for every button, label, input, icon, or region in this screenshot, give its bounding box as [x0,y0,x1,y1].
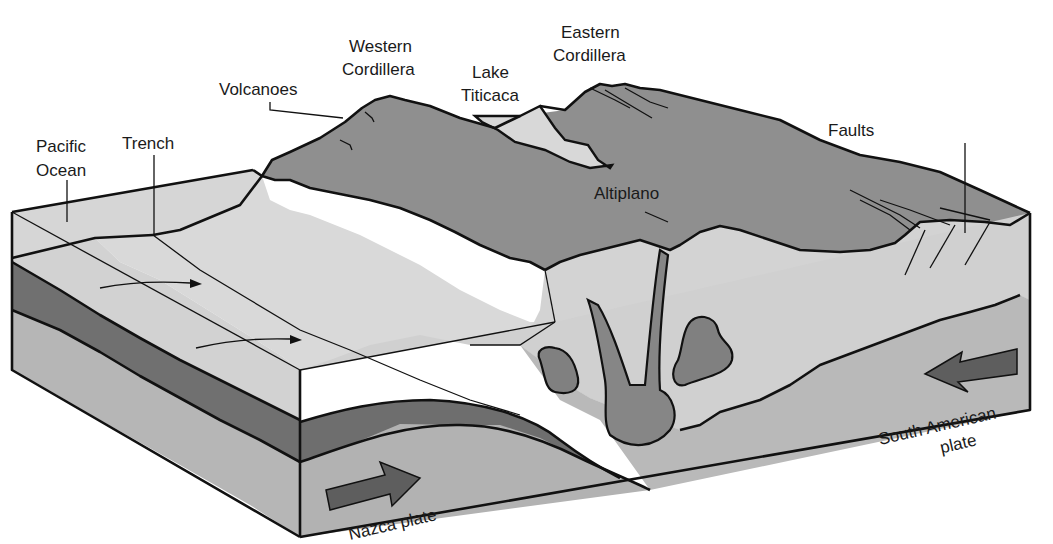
label-faults: Faults [828,121,874,140]
label-trench: Trench [122,134,174,153]
label-pacific-ocean-2: Ocean [36,161,86,180]
label-western-cordillera-1: Western [349,37,412,56]
label-pacific-ocean-1: Pacific [36,137,87,156]
label-lake-titicaca-1: Lake [472,63,509,82]
label-eastern-cordillera-1: Eastern [561,23,620,42]
label-altiplano: Altiplano [594,184,659,203]
label-south-american-plate-2: plate [938,430,978,457]
label-western-cordillera-2: Cordillera [342,60,415,79]
label-volcanoes: Volcanoes [219,80,297,99]
andes-block-diagram: Pacific Ocean Trench Volcanoes Western C… [0,0,1053,544]
label-lake-titicaca-2: Titicaca [461,86,519,105]
label-eastern-cordillera-2: Cordillera [553,46,626,65]
